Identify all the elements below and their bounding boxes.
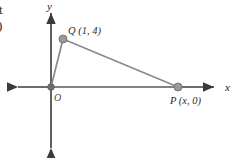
segment-q-p	[63, 39, 178, 87]
point-marker-q	[59, 35, 67, 43]
segment-o-q	[51, 39, 63, 87]
origin-label: O	[54, 92, 61, 103]
coordinate-geometry-figure: y x O Q (1, 4) P (x, 0) t )	[0, 0, 242, 158]
y-axis-label: y	[46, 0, 52, 12]
point-marker-p	[174, 83, 182, 91]
figure-canvas: y x O Q (1, 4) P (x, 0) t )	[0, 0, 242, 158]
point-label-q: Q (1, 4)	[68, 25, 101, 37]
edge-fragment-bottom: )	[0, 18, 2, 33]
point-label-p: P (x, 0)	[169, 95, 202, 107]
point-marker-origin	[48, 84, 55, 91]
edge-fragment-top: t	[0, 2, 3, 17]
x-axis-label: x	[224, 81, 230, 93]
